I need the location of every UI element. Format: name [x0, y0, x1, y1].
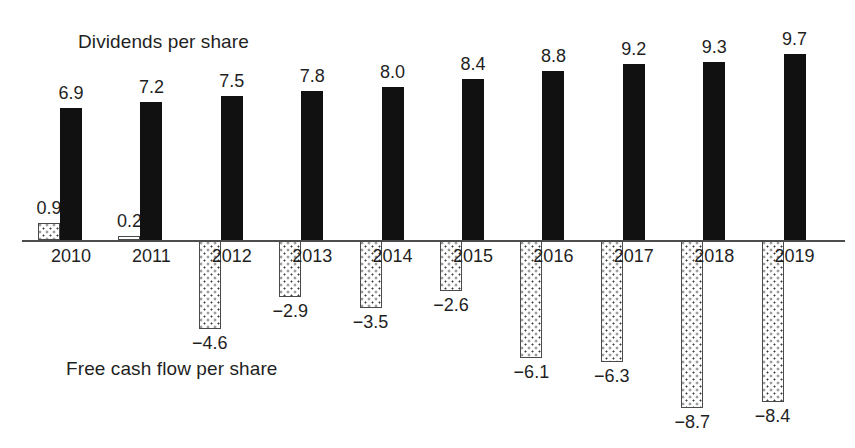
free-cash-flow-value-label-2018: −8.7	[662, 412, 722, 433]
free-cash-flow-value-label-2013: −2.9	[260, 301, 320, 322]
free-cash-flow-value-label-2014: −3.5	[341, 312, 401, 333]
dividends-value-label-2018: 9.3	[684, 37, 744, 58]
free-cash-flow-value-label-2012: −4.6	[180, 333, 240, 354]
x-axis-tick-label-2018: 2018	[679, 246, 749, 267]
dividends-bar-2017	[623, 64, 645, 240]
x-axis-tick-label-2017: 2017	[599, 246, 669, 267]
dividends-value-label-2016: 8.8	[523, 46, 583, 67]
dividends-value-label-2011: 7.2	[121, 77, 181, 98]
dividends-bar-2010	[60, 108, 82, 240]
dividends-value-label-2012: 7.5	[202, 71, 262, 92]
plot-area: 0.96.920100.27.22011−4.67.52012−2.97.820…	[0, 0, 855, 448]
x-axis-tick-label-2014: 2014	[358, 246, 428, 267]
x-axis-tick-label-2015: 2015	[438, 246, 508, 267]
x-axis-tick-label-2010: 2010	[36, 246, 106, 267]
x-axis-tick-label-2011: 2011	[116, 246, 186, 267]
free-cash-flow-bar-2011	[118, 236, 140, 240]
dividends-value-label-2010: 6.9	[41, 83, 101, 104]
x-axis-tick-label-2013: 2013	[277, 246, 347, 267]
free-cash-flow-value-label-2017: −6.3	[582, 366, 642, 387]
free-cash-flow-bar-2010	[38, 223, 60, 240]
dual-series-bar-chart: Dividends per share Free cash flow per s…	[0, 0, 855, 448]
dividends-bar-2011	[140, 102, 162, 240]
dividends-bar-2014	[382, 87, 404, 240]
free-cash-flow-value-label-2015: −2.6	[421, 295, 481, 316]
free-cash-flow-value-label-2016: −6.1	[501, 362, 561, 383]
dividends-bar-2012	[221, 96, 243, 240]
dividends-value-label-2013: 7.8	[282, 66, 342, 87]
dividends-bar-2019	[784, 54, 806, 240]
x-axis-tick-label-2012: 2012	[197, 246, 267, 267]
dividends-bar-2018	[703, 62, 725, 240]
dividends-bar-2016	[542, 71, 564, 240]
x-axis-tick-label-2019: 2019	[760, 246, 830, 267]
dividends-value-label-2019: 9.7	[765, 29, 825, 50]
dividends-value-label-2017: 9.2	[604, 39, 664, 60]
dividends-value-label-2014: 8.0	[363, 62, 423, 83]
free-cash-flow-value-label-2019: −8.4	[743, 406, 803, 427]
x-axis-tick-label-2016: 2016	[518, 246, 588, 267]
dividends-bar-2015	[462, 79, 484, 240]
dividends-bar-2013	[301, 91, 323, 240]
dividends-value-label-2015: 8.4	[443, 54, 503, 75]
